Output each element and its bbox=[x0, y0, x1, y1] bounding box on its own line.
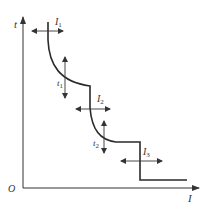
svg-text:t2: t2 bbox=[93, 138, 100, 150]
adjust-I3: I3 bbox=[121, 146, 162, 161]
adjust-t1: t1 bbox=[57, 57, 65, 98]
svg-text:I2: I2 bbox=[96, 93, 104, 106]
svg-text:t1: t1 bbox=[57, 78, 64, 90]
x-axis-label: I bbox=[187, 192, 193, 204]
svg-text:I3: I3 bbox=[142, 146, 150, 159]
time-current-diagram: t O I I1 t1 I2 t2 I3 bbox=[0, 0, 214, 210]
adjust-I2: I2 bbox=[76, 93, 110, 109]
y-axis-label: t bbox=[14, 18, 18, 30]
origin-label: O bbox=[8, 183, 15, 194]
svg-text:I1: I1 bbox=[54, 16, 62, 29]
characteristic-curve bbox=[48, 22, 187, 180]
